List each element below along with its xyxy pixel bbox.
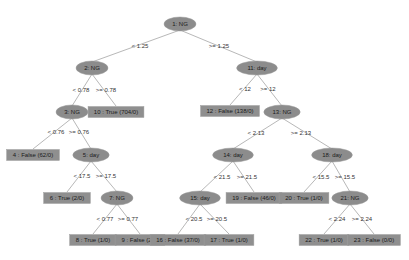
node-label: 14: day — [223, 152, 243, 158]
node-label: 22 : True (1/0) — [305, 237, 343, 243]
node-label: 4 : False (62/0) — [13, 152, 53, 158]
edge-label: >= 2.24 — [352, 216, 373, 222]
leaf-node: 6 : True (2/0) — [44, 193, 91, 204]
node-label: 5: day — [83, 152, 99, 158]
edge-label: < 15.5 — [313, 174, 331, 180]
split-node: 18: day — [312, 148, 353, 162]
node-label: 23 : False (0/0) — [354, 237, 394, 243]
node-label: 1: NG — [172, 21, 188, 27]
split-node: 15: day — [180, 191, 221, 205]
node-label: 21: NG — [340, 195, 359, 201]
node-label: 7: NG — [109, 195, 125, 201]
node-label: 16 : False (37/0) — [156, 237, 200, 243]
split-node: 14: day — [213, 148, 254, 162]
node-label: 11: day — [247, 65, 266, 71]
edge-label: < 20.5 — [186, 216, 204, 222]
leaf-node: 22 : True (1/0) — [299, 235, 349, 246]
node-label: 19 : False (46/0) — [232, 195, 276, 201]
edge-label: < 17.5 — [74, 173, 92, 179]
edge-label: >= 2.13 — [291, 130, 312, 136]
edge-label: < 0.76 — [48, 129, 66, 135]
node-label: 20 : True (1/0) — [285, 195, 323, 201]
leaf-node: 10 : True (704/0) — [88, 107, 144, 118]
edge-label: >= 0.77 — [118, 216, 139, 222]
node-label: 18: day — [322, 152, 342, 158]
node-label: 2: NG — [84, 65, 100, 71]
edge-label: < 21.5 — [214, 174, 232, 180]
leaf-node: 8 : True (1/0) — [70, 235, 117, 246]
node-label: 15: day — [190, 195, 210, 201]
split-node: 3: NG — [56, 105, 88, 119]
edge-label: < 0.77 — [97, 216, 115, 222]
edge-label: >= 1.25 — [209, 43, 230, 49]
edge-label: < 0.78 — [73, 87, 91, 93]
edge-label: >= 0.78 — [96, 87, 117, 93]
split-node: 2: NG — [76, 61, 108, 75]
decision-tree-diagram: < 1.25>= 1.25< 0.78>= 0.78< 0.76>= 0.76<… — [0, 0, 409, 260]
leaf-node: 17 : True (1/0) — [204, 235, 254, 246]
edge-label: >= 0.76 — [69, 129, 90, 135]
node-layer: 1: NG2: NG11: day3: NG10 : True (704/0)4… — [7, 17, 401, 246]
edge-label: < 2.24 — [329, 216, 347, 222]
node-label: 8 : True (1/0) — [76, 237, 110, 243]
split-node: 21: NG — [332, 191, 368, 205]
split-node: 1: NG — [164, 17, 196, 31]
node-label: 3: NG — [64, 109, 80, 115]
leaf-node: 19 : False (46/0) — [226, 193, 282, 204]
split-node: 5: day — [73, 148, 109, 162]
edge-label: >= 12 — [260, 86, 276, 92]
edge-label: >= 17.5 — [96, 173, 117, 179]
edge-label: < 12 — [239, 86, 252, 92]
node-label: 6 : True (2/0) — [50, 195, 84, 201]
edge-label: >= 20.5 — [207, 216, 228, 222]
leaf-node: 4 : False (62/0) — [7, 150, 60, 161]
edge-label: < 1.25 — [132, 43, 150, 49]
split-node: 7: NG — [101, 191, 133, 205]
split-node: 13: NG — [264, 105, 300, 119]
split-node: 11: day — [237, 61, 278, 75]
node-label: 10 : True (704/0) — [94, 109, 138, 115]
edge-label: >= 15.5 — [335, 174, 356, 180]
leaf-node: 16 : False (37/0) — [150, 235, 206, 246]
leaf-node: 20 : True (1/0) — [279, 193, 329, 204]
leaf-node: 12 : False (138/0) — [201, 106, 260, 117]
edge-label: >= 21.5 — [237, 174, 258, 180]
node-label: 12 : False (138/0) — [206, 108, 253, 114]
leaf-node: 23 : False (0/0) — [348, 235, 401, 246]
node-label: 17 : True (1/0) — [210, 237, 248, 243]
node-label: 13: NG — [272, 109, 291, 115]
edge-label: < 2.13 — [248, 130, 266, 136]
